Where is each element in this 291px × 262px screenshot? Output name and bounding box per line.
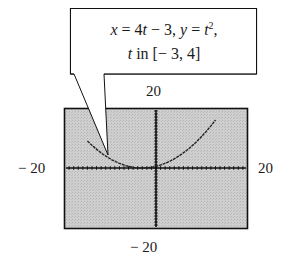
callout-range-line: t in [− 3, 4]: [78, 46, 250, 62]
t-range: in [− 3, 4]: [132, 45, 200, 62]
equation-part: − 3,: [147, 21, 180, 38]
y-max-label: 20: [146, 84, 161, 99]
chart-canvas: [0, 0, 291, 262]
y-min-label: − 20: [130, 240, 157, 255]
equation-part: ,: [214, 21, 218, 38]
callout-box-fill: [71, 9, 256, 74]
equation-part: =: [187, 21, 204, 38]
x-max-label: 20: [258, 161, 273, 176]
equation-part: = 4: [118, 21, 143, 38]
callout-equation-line: x = 4t − 3, y = t2,: [78, 21, 250, 38]
x-variable: x: [110, 21, 117, 38]
x-min-label: − 20: [18, 161, 45, 176]
